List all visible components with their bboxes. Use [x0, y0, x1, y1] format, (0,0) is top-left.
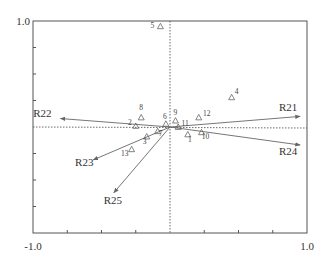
- point-label: 8: [139, 103, 143, 112]
- point-label: 7: [159, 129, 163, 138]
- axis-ticks: [33, 48, 273, 234]
- vector-r21: [170, 116, 300, 127]
- point-label: 2: [128, 118, 132, 127]
- point-label: 12: [203, 109, 211, 118]
- triangle-marker-icon: [172, 118, 178, 123]
- point-label: 11: [182, 119, 189, 128]
- point-label: 1: [188, 135, 192, 144]
- x-tick-label-min: -1.0: [24, 240, 42, 252]
- point-label: 5: [151, 21, 155, 30]
- triangle-marker-icon: [229, 94, 235, 99]
- point-label: 10: [202, 132, 210, 141]
- point-label: 3: [143, 137, 147, 146]
- biplot-chart: R21R22R23R24R25 12345678910111213 1.0-1.…: [0, 0, 328, 263]
- vector-label: R24: [279, 145, 298, 157]
- vector-label: R22: [33, 107, 51, 119]
- vector-label: R25: [104, 194, 123, 206]
- x-tick-label-max: 1.0: [300, 240, 314, 252]
- point-label: 9: [174, 108, 178, 117]
- triangle-marker-icon: [138, 114, 144, 119]
- vector-label: R23: [75, 156, 94, 168]
- vector-label: R21: [279, 101, 297, 113]
- triangle-marker-icon: [157, 23, 163, 28]
- point-label: 6: [163, 112, 167, 121]
- vector-r22: [60, 119, 170, 127]
- triangle-marker-icon: [163, 121, 169, 126]
- point-label: 13: [121, 149, 129, 158]
- points: 12345678910111213: [121, 21, 239, 158]
- point-label: 4: [235, 87, 239, 96]
- triangle-marker-icon: [196, 114, 202, 119]
- axis-labels: 1.0-1.01.0: [16, 15, 314, 252]
- triangle-marker-icon: [129, 146, 135, 151]
- y-tick-label-top: 1.0: [16, 15, 30, 27]
